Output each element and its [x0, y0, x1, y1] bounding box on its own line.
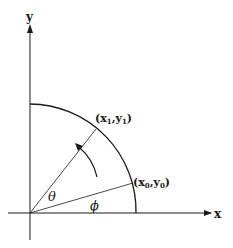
rotation-arrow-icon	[79, 147, 97, 177]
radius-line-p0	[30, 183, 133, 213]
phi-label: ϕ	[90, 198, 99, 213]
theta-label: θ	[48, 189, 56, 204]
x-axis-arrow-icon	[204, 210, 212, 216]
x-axis-label: x	[214, 207, 222, 221]
point-p1-label: (x1,y1)	[95, 112, 132, 126]
y-axis-label: y	[25, 10, 34, 24]
radius-line-p1	[30, 129, 96, 213]
rotation-diagram: x y θ ϕ (x1,y1) (x0,y0)	[0, 0, 233, 248]
point-p0-label: (x0,y0)	[133, 176, 170, 190]
y-axis-arrow-icon	[27, 24, 33, 33]
